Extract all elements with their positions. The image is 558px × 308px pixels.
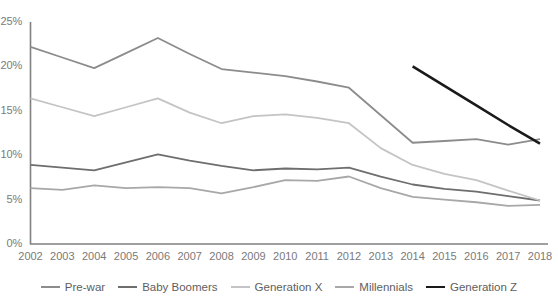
legend-swatch-icon [335,286,354,288]
legend-item-millennials[interactable]: Millennials [335,281,413,293]
axis-lines [31,22,549,244]
x-tick-label: 2005 [114,250,138,262]
legend-item-generation-z[interactable]: Generation Z [426,281,517,293]
x-tick-label: 2003 [50,250,74,262]
x-tick-label: 2011 [305,250,329,262]
legend-label: Millennials [359,281,413,293]
x-tick-label: 2008 [209,250,233,262]
y-tick-label: 0% [0,237,22,249]
series-line-generation-x [31,98,541,200]
y-tick-label: 25% [0,15,22,27]
legend-label: Baby Boomers [142,281,217,293]
x-tick-label: 2004 [82,250,106,262]
x-tick-label: 2016 [464,250,488,262]
y-tick-label: 15% [0,104,22,116]
legend-swatch-icon [426,286,445,288]
x-tick-label: 2007 [177,250,201,262]
x-tick-label: 2015 [432,250,456,262]
legend-item-generation-x[interactable]: Generation X [231,281,323,293]
x-tick-label: 2009 [241,250,265,262]
series-line-pre-war [31,38,541,145]
y-tick-label: 5% [0,193,22,205]
series-line-generation-z [413,66,540,143]
x-tick-label: 2018 [528,250,552,262]
series-lines [31,38,541,206]
legend-item-baby-boomers[interactable]: Baby Boomers [118,281,217,293]
generation-trend-line-chart: 25%20%15%10%5%0% 20022003200420052006200… [0,0,558,308]
x-tick-label: 2002 [18,250,42,262]
x-tick-label: 2017 [496,250,520,262]
legend-label: Generation Z [450,281,517,293]
legend-swatch-icon [41,286,60,288]
x-tick-label: 2013 [369,250,393,262]
x-tick-label: 2010 [273,250,297,262]
x-tick-label: 2006 [146,250,170,262]
legend-item-pre-war[interactable]: Pre-war [41,281,105,293]
legend-swatch-icon [231,286,250,288]
chart-legend: Pre-warBaby BoomersGeneration XMillennia… [0,281,558,293]
legend-label: Pre-war [65,281,105,293]
axis-spine [31,22,549,244]
y-tick-label: 20% [0,59,22,71]
legend-label: Generation X [255,281,323,293]
y-tick-label: 10% [0,148,22,160]
legend-swatch-icon [118,286,137,288]
x-tick-label: 2012 [337,250,361,262]
x-tick-label: 2014 [400,250,424,262]
